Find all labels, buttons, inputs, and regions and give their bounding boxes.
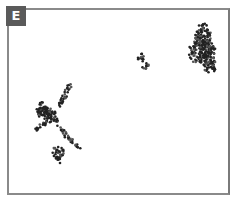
scatter-points bbox=[0, 0, 235, 201]
